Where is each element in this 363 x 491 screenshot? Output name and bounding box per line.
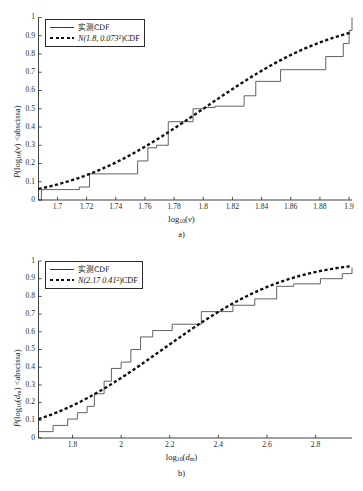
x-tick-label: 1.8 — [68, 440, 78, 449]
x-tick-label: 1.9 — [344, 202, 354, 211]
normal-cdf-fit-curve — [39, 266, 353, 419]
empirical-cdf-step-curve — [39, 267, 353, 438]
y-tick-label: 1 — [31, 12, 35, 21]
y-tick-label: 0.3 — [26, 140, 36, 149]
y-tick-label: 0.6 — [26, 85, 36, 94]
y-tick-label: 0.7 — [26, 67, 36, 76]
x-tick-label: 1.72 — [80, 202, 93, 211]
x-tick-label: 1.76 — [138, 202, 151, 211]
x-tick-label: 1.86 — [284, 202, 297, 211]
legend-label-normal-a: N(1.8, 0.0732)CDF — [78, 32, 140, 44]
y-tick-label: 0.8 — [26, 49, 36, 58]
y-tick-label: 0.1 — [26, 177, 36, 186]
y-tick-label: 0.8 — [26, 291, 36, 300]
x-tick-label: 1.82 — [226, 202, 239, 211]
legend-swatch-solid-line-icon — [49, 265, 75, 275]
legend-swatch-dotted-line-icon — [49, 276, 75, 286]
legend-entry-normal-b: N(2.17 0.412)CDF — [49, 275, 138, 286]
y-tick-label: 0.9 — [26, 31, 36, 40]
legend-normal-suffix-a: )CDF — [121, 35, 139, 44]
x-tick-label: 2.2 — [165, 440, 175, 449]
legend-swatch-solid-line-icon — [49, 23, 75, 33]
y-axis-title-a: P(log10(v) <abscissa) — [12, 105, 22, 178]
x-axis-title-a: log10(v) — [0, 214, 363, 224]
legend-normal-prefix-b: N(2.17 0.41 — [78, 277, 116, 286]
y-tick-label: 0.6 — [26, 327, 36, 336]
y-tick-label: 0.3 — [26, 380, 36, 389]
x-tick-label: 1.88 — [313, 202, 326, 211]
legend-label-empirical-a: 实测CDF — [78, 22, 110, 33]
y-tick-label: 0.4 — [26, 122, 36, 131]
subfigure-caption-a: a) — [0, 230, 363, 239]
legend-entry-empirical-b: 实测CDF — [49, 264, 138, 275]
y-tick-label: 0.5 — [26, 104, 36, 113]
x-tick-label: 2 — [119, 440, 123, 449]
legend-a: 实测CDF N(1.8, 0.0732)CDF — [45, 19, 145, 47]
figure-panel-b: 00.10.20.30.40.50.60.70.80.911.822.22.42… — [0, 245, 363, 491]
y-tick-label: 0.5 — [26, 344, 36, 353]
y-tick-label: 1 — [31, 256, 35, 265]
legend-label-normal-b: N(2.17 0.412)CDF — [78, 274, 138, 286]
y-tick-label: 0 — [31, 195, 35, 204]
legend-normal-prefix-a: N(1.8, 0.073 — [78, 35, 118, 44]
legend-entry-empirical-a: 实测CDF — [49, 22, 140, 33]
x-tick-label: 2.8 — [311, 440, 321, 449]
x-tick-label: 1.74 — [109, 202, 122, 211]
legend-entry-normal-a: N(1.8, 0.0732)CDF — [49, 33, 140, 44]
legend-normal-suffix-b: )CDF — [119, 277, 137, 286]
y-tick-label: 0.1 — [26, 415, 36, 424]
x-tick-label: 1.7 — [53, 202, 63, 211]
normal-cdf-fit-curve — [39, 32, 353, 189]
x-tick-label: 1.84 — [255, 202, 268, 211]
legend-label-empirical-b: 实测CDF — [78, 264, 110, 275]
y-tick-label: 0.9 — [26, 273, 36, 282]
legend-swatch-dotted-line-icon — [49, 34, 75, 44]
y-axis-title-b: P(log10(dm) <abscissa) — [12, 349, 22, 427]
x-tick-label: 2.6 — [262, 440, 272, 449]
legend-b: 实测CDF N(2.17 0.412)CDF — [45, 261, 143, 289]
y-tick-label: 0.2 — [26, 397, 36, 406]
subfigure-caption-b: b) — [0, 469, 363, 478]
y-tick-label: 0.4 — [26, 362, 36, 371]
x-axis-title-b: log10(dm) — [0, 452, 363, 462]
y-tick-label: 0 — [31, 433, 35, 442]
y-tick-label: 0.2 — [26, 158, 36, 167]
x-tick-label: 2.4 — [214, 440, 224, 449]
x-tick-label: 1.78 — [167, 202, 180, 211]
x-tick-label: 1.8 — [199, 202, 209, 211]
figure-panel-a: 00.10.20.30.40.50.60.70.80.911.71.721.74… — [0, 0, 363, 245]
y-tick-label: 0.7 — [26, 309, 36, 318]
